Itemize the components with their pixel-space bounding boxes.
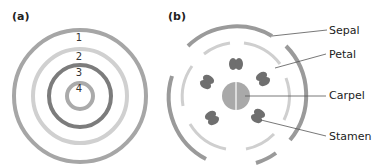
ring-3-label: 3: [76, 68, 82, 78]
ring-1-label: 1: [76, 33, 82, 43]
ring-2-label: 2: [76, 52, 82, 62]
whorl-rings: [14, 30, 146, 162]
diagram-graphic: [0, 0, 375, 168]
panel-b-label: (b): [168, 10, 186, 23]
petal-label: Petal: [329, 49, 356, 60]
flower-diagram: (a) (b) 1 2 3 4 Sepal Petal Carpel Stame…: [0, 0, 375, 168]
carpel-label: Carpel: [329, 90, 365, 101]
stamen-label: Stamen: [329, 131, 372, 142]
sepal-label: Sepal: [329, 25, 360, 36]
panel-a-label: (a): [12, 10, 29, 23]
ring-4-label: 4: [76, 84, 82, 94]
floral-diagram: [169, 26, 306, 163]
